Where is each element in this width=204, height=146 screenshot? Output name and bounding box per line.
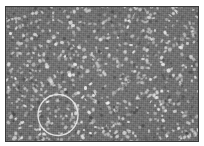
micrograph-feature (110, 23, 114, 27)
micrograph-feature (184, 88, 187, 92)
micrograph-feature-dark (122, 122, 126, 126)
micrograph-feature (76, 66, 79, 69)
micrograph-feature (166, 135, 170, 139)
micrograph-feature (119, 102, 122, 105)
micrograph-feature (147, 112, 149, 114)
micrograph-feature (89, 131, 92, 134)
micrograph-feature (84, 98, 87, 101)
micrograph-feature-dark (79, 78, 83, 82)
micrograph-feature (23, 95, 26, 99)
micrograph-feature (84, 9, 89, 14)
micrograph-feature (71, 39, 75, 41)
micrograph-viewport (0, 0, 204, 146)
micrograph-feature (39, 93, 43, 96)
micrograph-feature (196, 128, 198, 132)
micrograph-feature (176, 19, 178, 21)
micrograph-feature-dark (19, 91, 22, 94)
micrograph-feature (123, 57, 127, 61)
micrograph-feature (118, 78, 121, 81)
micrograph-feature (111, 64, 115, 67)
micrograph-feature (165, 26, 167, 28)
micrograph-feature-dark (10, 55, 13, 58)
micrograph-feature (93, 131, 96, 134)
micrograph-feature (181, 68, 183, 72)
micrograph-feature-dark (141, 123, 146, 128)
micrograph-feature (80, 66, 84, 70)
micrograph-feature (38, 70, 40, 72)
micrograph-feature-dark (138, 106, 141, 109)
micrograph-feature-dark (52, 86, 55, 89)
micrograph-feature (124, 50, 128, 54)
micrograph-feature (127, 121, 130, 123)
micrograph-feature (171, 129, 175, 132)
micrograph-feature-dark (169, 61, 172, 65)
micrograph-feature-dark (78, 57, 80, 59)
micrograph-feature-dark (86, 35, 90, 39)
micrograph-feature-dark (114, 46, 118, 49)
micrograph-feature-dark (79, 35, 81, 37)
micrograph-feature (144, 58, 148, 63)
micrograph-feature (11, 68, 13, 70)
micrograph-feature (83, 129, 85, 131)
micrograph-feature (77, 53, 80, 56)
micrograph-feature-dark (139, 136, 142, 139)
micrograph-feature (126, 25, 129, 29)
micrograph-feature-dark (105, 39, 109, 43)
micrograph-feature (163, 49, 168, 53)
micrograph-feature (49, 28, 52, 31)
micrograph-feature (148, 129, 150, 133)
micrograph-feature (175, 6, 179, 9)
micrograph-feature (39, 19, 42, 21)
micrograph-feature (180, 6, 184, 9)
micrograph-feature (130, 16, 134, 20)
micrograph-feature (26, 88, 29, 91)
micrograph-feature-dark (161, 128, 164, 130)
micrograph-feature (59, 138, 63, 142)
micrograph-feature (147, 42, 151, 45)
micrograph-feature (164, 81, 168, 85)
micrograph-feature (37, 26, 40, 29)
micrograph-feature (167, 78, 169, 81)
micrograph-feature (77, 26, 82, 31)
micrograph-feature (16, 105, 18, 108)
micrograph-feature (195, 15, 199, 19)
micrograph-feature (161, 118, 166, 123)
micrograph-feature-dark (146, 141, 150, 142)
micrograph-feature-dark (153, 136, 156, 139)
micrograph-feature (105, 63, 108, 65)
micrograph-feature (181, 126, 184, 129)
micrograph-feature-dark (196, 11, 199, 16)
micrograph-feature (105, 47, 109, 49)
micrograph-feature (145, 66, 150, 69)
micrograph-feature (188, 122, 190, 125)
micrograph-feature-dark (17, 49, 21, 52)
micrograph-feature-dark (57, 126, 60, 128)
micrograph-feature-dark (53, 24, 55, 26)
micrograph-feature (41, 30, 45, 33)
micrograph-feature (156, 127, 160, 130)
micrograph-feature (27, 59, 31, 63)
micrograph-feature (52, 19, 55, 21)
micrograph-feature (106, 96, 109, 98)
micrograph-feature-dark (150, 6, 152, 8)
micrograph-feature-dark (37, 67, 39, 69)
micrograph-feature (133, 134, 137, 137)
micrograph-feature (165, 33, 170, 37)
micrograph-feature (149, 78, 152, 81)
micrograph-feature-dark (45, 56, 49, 59)
micrograph-feature (49, 111, 51, 114)
micrograph-feature-dark (67, 141, 69, 142)
micrograph-feature-dark (155, 19, 158, 22)
micrograph-feature-dark (133, 111, 136, 114)
micrograph-feature (88, 22, 92, 25)
micrograph-feature (35, 70, 37, 73)
micrograph-feature (141, 58, 145, 61)
micrograph-feature-dark (124, 139, 129, 142)
micrograph-feature (47, 39, 52, 43)
micrograph-feature (135, 82, 140, 85)
micrograph-feature-dark (134, 20, 138, 24)
micrograph-feature-dark (13, 112, 17, 116)
micrograph-feature (11, 51, 15, 55)
micrograph-feature-dark (73, 86, 76, 89)
micrograph-feature-dark (37, 45, 41, 49)
